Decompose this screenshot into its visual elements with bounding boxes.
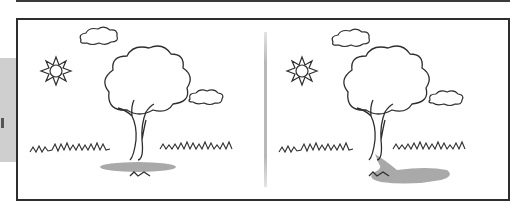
cloud-icon [332,29,369,46]
sun-icon [287,57,317,85]
sun-icon [41,57,71,85]
tree-icon [105,46,190,176]
side-tab-mark [1,118,4,128]
cloud-icon [80,27,117,44]
tree-shadow [371,154,450,184]
side-tab [0,58,16,162]
tree-icon [344,46,429,176]
top-rule [16,0,510,2]
grass [279,142,465,152]
left-panel [18,20,264,199]
illustration-frame [16,18,510,201]
tree-shadow [100,162,176,172]
cloud-icon [429,91,463,106]
grass [30,142,232,152]
right-panel [267,20,508,199]
cloud-icon [189,90,223,105]
